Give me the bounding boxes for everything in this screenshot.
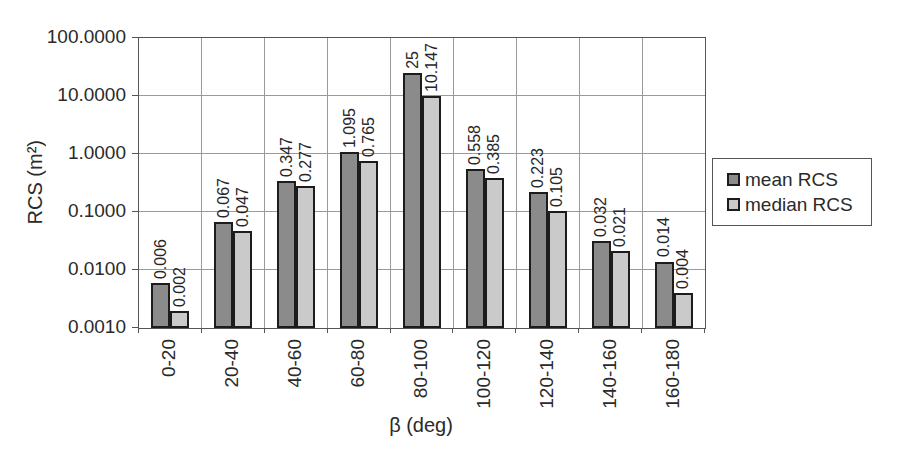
bar-mean bbox=[277, 181, 296, 328]
bar-value-label: 0.021 bbox=[612, 207, 629, 247]
bar-value-label: 0.047 bbox=[235, 187, 252, 227]
legend-item-median-rcs: median RCS bbox=[727, 192, 861, 217]
x-tick-mark bbox=[578, 328, 579, 333]
x-tick-label: 80-100 bbox=[411, 339, 430, 398]
chart-canvas: RCS (m²) 0.0060.0670.3471.095250.5580.22… bbox=[0, 0, 901, 460]
bar-value-label: 0.105 bbox=[549, 167, 566, 207]
x-tick-label: 40-60 bbox=[285, 339, 304, 388]
bar-median bbox=[674, 293, 693, 328]
legend-label: median RCS bbox=[745, 194, 853, 216]
x-tick-mark bbox=[390, 328, 391, 333]
bar-mean bbox=[529, 192, 548, 328]
bar-value-label: 10.147 bbox=[424, 43, 441, 92]
x-gridline bbox=[642, 38, 643, 328]
bar-value-label: 0.032 bbox=[593, 197, 610, 237]
y-axis-title-wrap: RCS (m²) bbox=[20, 37, 50, 327]
bar-median bbox=[233, 231, 252, 328]
x-tick-mark bbox=[641, 328, 642, 333]
bar-mean bbox=[592, 241, 611, 328]
bar-mean bbox=[655, 262, 674, 328]
x-tick-label: 140-160 bbox=[600, 339, 619, 409]
bar-value-label: 0.347 bbox=[279, 137, 296, 177]
x-gridline bbox=[327, 38, 328, 328]
bar-value-label: 0.067 bbox=[216, 178, 233, 218]
x-gridline bbox=[579, 38, 580, 328]
bar-value-label: 0.277 bbox=[298, 142, 315, 182]
x-tick-label: 160-180 bbox=[663, 339, 682, 409]
x-gridline bbox=[453, 38, 454, 328]
bar-value-label: 0.385 bbox=[486, 134, 503, 174]
bar-mean bbox=[466, 169, 485, 328]
plot-area: 0.0060.0670.3471.095250.5580.2230.0320.0… bbox=[138, 37, 706, 329]
y-tick-label: 1.0000 bbox=[68, 142, 126, 164]
y-axis-title: RCS (m²) bbox=[24, 140, 47, 224]
bar-value-label: 0.004 bbox=[675, 249, 692, 289]
bar-mean bbox=[403, 73, 422, 328]
bar-median bbox=[170, 311, 189, 328]
y-tick-mark bbox=[132, 95, 138, 96]
y-tick-label: 0.0100 bbox=[68, 258, 126, 280]
bar-median bbox=[548, 211, 567, 328]
x-gridline bbox=[516, 38, 517, 328]
x-gridline bbox=[264, 38, 265, 328]
x-tick-mark bbox=[201, 328, 202, 333]
legend-swatch-icon bbox=[727, 198, 740, 211]
y-tick-label: 10.0000 bbox=[57, 84, 126, 106]
legend-label: mean RCS bbox=[745, 169, 838, 191]
x-tick-label: 20-40 bbox=[222, 339, 241, 388]
x-gridline bbox=[390, 38, 391, 328]
x-tick-mark bbox=[704, 328, 705, 333]
y-tick-mark bbox=[132, 211, 138, 212]
bar-median bbox=[611, 251, 630, 328]
bar-value-label: 0.558 bbox=[467, 125, 484, 165]
bar-value-label: 0.002 bbox=[172, 267, 189, 307]
x-tick-mark bbox=[515, 328, 516, 333]
bar-value-label: 0.223 bbox=[530, 148, 547, 188]
bar-median bbox=[485, 178, 504, 328]
x-tick-mark bbox=[327, 328, 328, 333]
y-tick-mark bbox=[132, 37, 138, 38]
bar-mean bbox=[340, 152, 359, 328]
x-tick-label: 60-80 bbox=[348, 339, 367, 388]
bar-median bbox=[359, 161, 378, 328]
legend-swatch-icon bbox=[727, 173, 740, 186]
bar-median bbox=[422, 96, 441, 328]
x-tick-label: 100-120 bbox=[474, 339, 493, 409]
bar-value-label: 25 bbox=[405, 51, 422, 69]
y-tick-mark bbox=[132, 153, 138, 154]
x-tick-mark bbox=[138, 328, 139, 333]
x-tick-mark bbox=[452, 328, 453, 333]
y-tick-label: 0.0010 bbox=[68, 316, 126, 338]
bar-mean bbox=[151, 283, 170, 328]
bar-mean bbox=[214, 222, 233, 328]
y-tick-mark bbox=[132, 269, 138, 270]
x-axis-title: β (deg) bbox=[138, 414, 704, 437]
x-tick-mark bbox=[264, 328, 265, 333]
bar-median bbox=[296, 186, 315, 328]
bar-value-label: 1.095 bbox=[342, 108, 359, 148]
bar-value-label: 0.006 bbox=[153, 239, 170, 279]
legend: mean RCSmedian RCS bbox=[712, 158, 872, 226]
x-tick-label: 120-140 bbox=[537, 339, 556, 409]
bar-value-label: 0.765 bbox=[361, 117, 378, 157]
x-tick-label: 0-20 bbox=[159, 339, 178, 377]
x-gridline bbox=[201, 38, 202, 328]
y-tick-label: 100.0000 bbox=[47, 26, 126, 48]
y-tick-label: 0.1000 bbox=[68, 200, 126, 222]
bar-value-label: 0.014 bbox=[656, 217, 673, 257]
legend-item-mean-rcs: mean RCS bbox=[727, 167, 861, 192]
